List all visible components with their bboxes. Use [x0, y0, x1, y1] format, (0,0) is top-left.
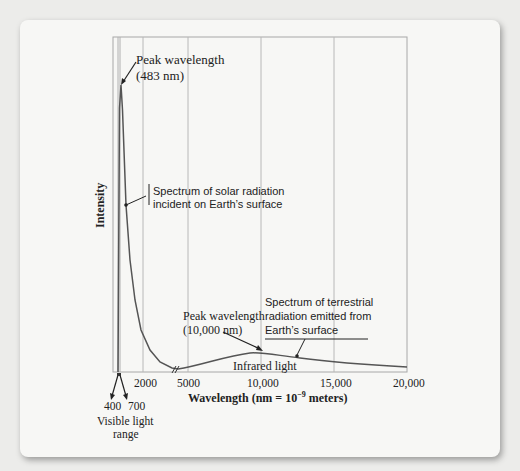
terr-leader-dot [295, 354, 299, 358]
x-axis-label: Wavelength (nm = 10−9 meters) [188, 390, 347, 405]
solar-label-line2: incident on Earth’s surface [153, 198, 282, 210]
tick-5000: 5000 [177, 377, 200, 389]
visible-range-label-line2: range [113, 428, 139, 441]
terr-leader-line [297, 339, 305, 355]
peak1-label-line1: Peak wavelength [136, 52, 225, 67]
visible-range-arrows [112, 375, 126, 396]
peak1-arrow [123, 62, 136, 82]
peak1-label-line2: (483 nm) [136, 68, 184, 83]
arrow-700-icon [123, 393, 128, 400]
infrared-label: Infrared light [233, 359, 297, 373]
peak2-arrowhead-icon [256, 345, 263, 351]
arrow-400-icon [110, 393, 115, 400]
tick-20000: 20,000 [393, 377, 425, 390]
terr-label-line1: Spectrum of terrestrial [265, 296, 373, 308]
tick-2000: 2000 [134, 377, 157, 389]
terr-label-line3: Earth’s surface [265, 324, 338, 336]
peak2-label-line2: (10,000 nm) [183, 323, 242, 337]
solar-spectrum-curve [118, 85, 178, 372]
terr-label-line2: radiation emitted from [265, 310, 371, 322]
solar-label-line1: Spectrum of solar radiation [153, 185, 284, 197]
peak2-label-line1: Peak wavelength [183, 309, 265, 323]
solar-leader-dot [124, 203, 128, 207]
vis-400-label: 400 [104, 400, 122, 412]
tick-15000: 15,000 [320, 377, 352, 390]
tick-10000: 10,000 [247, 377, 279, 390]
vis-700-label: 700 [128, 400, 146, 412]
visible-band-marker [117, 373, 121, 376]
spectrum-chart: Peak wavelength (483 nm) Spectrum of sol… [0, 0, 520, 471]
y-axis-label: Intensity [93, 183, 107, 228]
visible-range-label-line1: Visible light [97, 415, 154, 428]
